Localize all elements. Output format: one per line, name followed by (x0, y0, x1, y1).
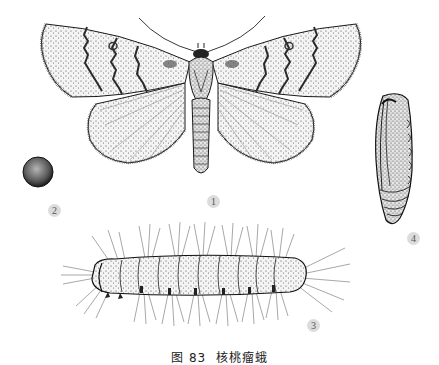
label-adult: 1 (207, 195, 220, 208)
egg (23, 157, 53, 187)
forewing-left (41, 24, 190, 97)
forewing-right (212, 24, 361, 97)
label-egg: 2 (48, 204, 61, 217)
adult-moth (41, 16, 360, 173)
label-larva: 3 (307, 319, 320, 332)
pupa (376, 94, 413, 224)
moth-body (189, 43, 213, 173)
larva (61, 222, 350, 326)
label-pupa: 4 (407, 232, 420, 245)
figure-caption: 图 83 核桃瘤蛾 (0, 348, 439, 365)
